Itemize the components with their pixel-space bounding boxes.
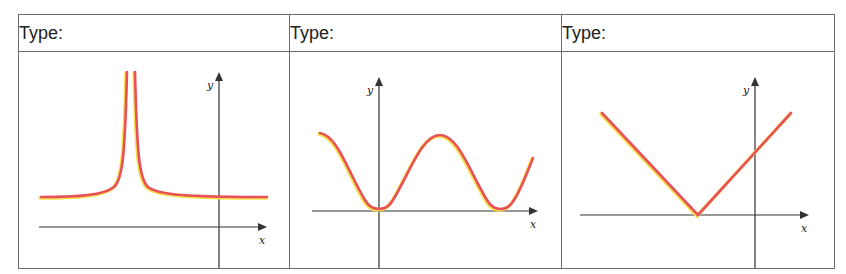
curve-highlight xyxy=(601,114,790,216)
type-header-1: Type: xyxy=(19,15,290,52)
function-curve xyxy=(602,113,791,215)
cropped-header-text xyxy=(150,0,155,6)
x-axis-label: x xyxy=(259,234,266,247)
type-header-3: Type: xyxy=(562,15,835,52)
x-axis-label: x xyxy=(801,222,808,235)
y-axis-label: y xyxy=(366,84,374,97)
x-axis-arrow-icon xyxy=(529,207,538,215)
graph-1-asymptote: xy xyxy=(19,52,289,268)
y-axis-label: y xyxy=(206,79,214,92)
y-axis-arrow-icon xyxy=(215,72,223,81)
x-axis-arrow-icon xyxy=(258,223,267,231)
graph-cell-2: xy xyxy=(290,52,562,269)
function-curve xyxy=(41,72,267,197)
graph-cell-1: xy xyxy=(19,52,290,269)
x-axis-label: x xyxy=(530,218,537,231)
y-axis-label: y xyxy=(742,84,750,97)
y-axis-arrow-icon xyxy=(375,77,383,86)
graph-type-table: Type: Type: Type: xy xy xy xyxy=(18,14,835,269)
graph-3-absolute-value: xy xyxy=(562,52,834,268)
graph-2-wave: xy xyxy=(290,52,561,268)
header-row: Type: Type: Type: xyxy=(19,15,835,52)
graph-row: xy xy xy xyxy=(19,52,835,269)
x-axis-arrow-icon xyxy=(800,211,809,219)
curve-highlight xyxy=(40,73,266,198)
type-header-2: Type: xyxy=(290,15,562,52)
y-axis-arrow-icon xyxy=(751,77,759,86)
graph-cell-3: xy xyxy=(562,52,835,269)
